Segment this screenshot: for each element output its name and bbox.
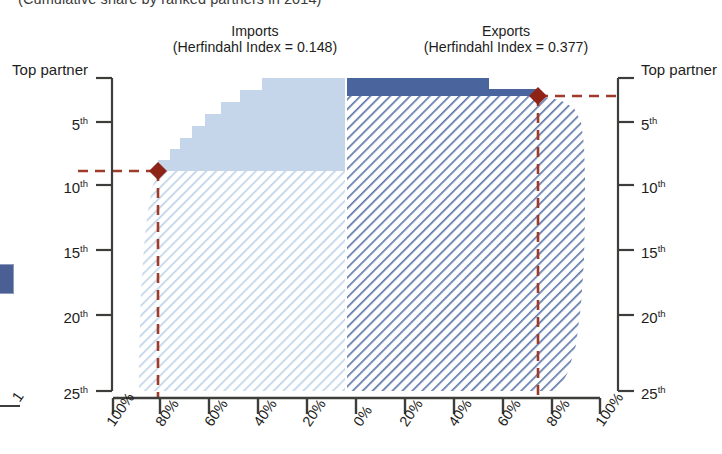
y-axis-right-label-20th: 20th [641, 306, 722, 325]
y-left-top-partner-text: Top partner [12, 61, 88, 78]
y-axis-right-label-25th: 25th [641, 382, 722, 401]
legend-color-swatch [0, 264, 14, 294]
y-axis-right-label-top-partner: Top partner [641, 63, 722, 77]
y-axis-right [618, 78, 634, 391]
y-axis-right-label-5th: 5th [641, 113, 722, 132]
y-axis-left-label-top-partner: Top partner [0, 63, 88, 77]
imports-lower-hatched-region [139, 171, 345, 391]
imports-staircase-region [158, 78, 345, 171]
y-axis-left-label-5th: 5th [0, 113, 88, 132]
y-axis-right-label-10th: 10th [641, 176, 722, 195]
exports-top-band-region [347, 78, 538, 96]
y-right-top-partner-text: Top partner [641, 61, 717, 78]
y-axis-left-label-10th: 10th [0, 176, 88, 195]
y-axis-left-label-15th: 15th [0, 241, 88, 260]
y-axis-left [96, 78, 112, 391]
exports-lower-hatched-region [347, 96, 585, 391]
y-axis-left-label-20th: 20th [0, 306, 88, 325]
y-axis-right-label-15th: 15th [641, 241, 722, 260]
